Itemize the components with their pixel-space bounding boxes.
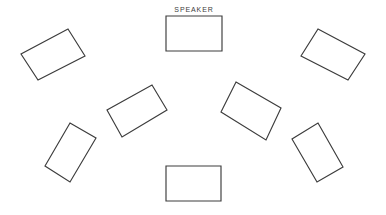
speaker-table [166, 16, 222, 51]
diagram-svg: SPEAKER [0, 0, 386, 215]
table-bottom-center [166, 166, 221, 201]
speaker-label: SPEAKER [174, 6, 213, 13]
seating-arrangement-diagram: SPEAKER [0, 0, 386, 215]
